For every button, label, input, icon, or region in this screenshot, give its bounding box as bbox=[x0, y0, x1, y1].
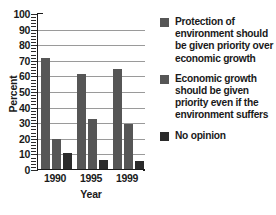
y-axis-minor-tick bbox=[31, 117, 36, 118]
y-axis-minor-tick bbox=[31, 114, 36, 115]
y-axis-minor-tick bbox=[31, 136, 36, 137]
y-axis-tick-labels: 0102030405060708090100 bbox=[4, 14, 30, 170]
bar bbox=[99, 160, 108, 169]
bar-group bbox=[113, 14, 144, 169]
y-axis-minor-tick bbox=[31, 158, 36, 159]
y-axis-tick-label: 30 bbox=[19, 118, 30, 129]
y-axis-tick-label: 20 bbox=[19, 134, 30, 145]
y-axis-minor-tick bbox=[31, 161, 36, 162]
y-axis-minor-tick bbox=[31, 64, 36, 65]
y-axis-minor-tick bbox=[31, 151, 36, 152]
y-axis-minor-tick bbox=[31, 98, 36, 99]
y-axis-minor-tick bbox=[31, 167, 36, 168]
y-axis-minor-tick bbox=[31, 17, 36, 18]
y-axis-tick-label: 80 bbox=[19, 40, 30, 51]
legend-item-label: Economic growth should be given priority… bbox=[175, 73, 276, 122]
y-axis-tick-label: 50 bbox=[19, 87, 30, 98]
y-axis-minor-tick bbox=[31, 101, 36, 102]
bar bbox=[52, 139, 61, 169]
legend-item-label: Protection of environment should be give… bbox=[175, 16, 276, 65]
y-axis-tick-label: 90 bbox=[19, 24, 30, 35]
y-axis-minor-tick bbox=[31, 86, 36, 87]
x-axis-title: Year bbox=[37, 188, 145, 200]
legend-item[interactable]: Economic growth should be given priority… bbox=[160, 73, 276, 122]
y-axis-minor-tick bbox=[31, 70, 36, 71]
y-axis-minor-tick bbox=[31, 120, 36, 121]
legend-item-label: No opinion bbox=[175, 130, 226, 142]
y-axis-minor-tick bbox=[31, 164, 36, 165]
bar bbox=[63, 153, 72, 169]
y-axis-minor-tick bbox=[31, 129, 36, 130]
y-axis-minor-tick bbox=[31, 133, 36, 134]
y-axis-minor-tick bbox=[31, 51, 36, 52]
legend-swatch-icon bbox=[160, 132, 169, 141]
bar bbox=[88, 119, 97, 169]
y-axis-minor-tick bbox=[31, 73, 36, 74]
y-axis-minor-tick bbox=[31, 58, 36, 59]
bar-group bbox=[41, 14, 72, 169]
y-axis-minor-tick bbox=[31, 111, 36, 112]
x-axis-tick-label: 1995 bbox=[80, 172, 102, 184]
y-axis-minor-tick bbox=[31, 104, 36, 105]
y-axis-minor-tick bbox=[31, 26, 36, 27]
y-axis-minor-tick bbox=[31, 95, 36, 96]
y-axis-minor-tick bbox=[31, 170, 38, 171]
bar-chart-figure: Percent 0102030405060708090100 199019951… bbox=[0, 0, 276, 215]
y-axis-tick-label: 40 bbox=[19, 102, 30, 113]
bar bbox=[124, 124, 133, 169]
x-axis-tick-labels: 199019951999 bbox=[37, 172, 145, 186]
y-axis-tick-label: 100 bbox=[13, 9, 30, 20]
y-axis-minor-tick bbox=[31, 148, 36, 149]
y-axis-minor-tick bbox=[31, 80, 36, 81]
plot-area: Percent 0102030405060708090100 199019951… bbox=[0, 0, 152, 215]
x-axis-tick-label: 1990 bbox=[44, 172, 66, 184]
y-axis-minor-tick bbox=[31, 67, 36, 68]
y-axis-minor-tick bbox=[31, 42, 36, 43]
y-axis-minor-tick bbox=[31, 83, 36, 84]
y-axis-minor-tick bbox=[31, 142, 36, 143]
bar bbox=[77, 74, 86, 169]
y-axis-minor-tick bbox=[31, 145, 36, 146]
y-axis-tick-label: 10 bbox=[19, 149, 30, 160]
legend-swatch-icon bbox=[160, 18, 169, 27]
y-axis-minor-tick bbox=[31, 55, 36, 56]
bar bbox=[135, 161, 144, 169]
axis-frame bbox=[37, 14, 145, 170]
bars-layer bbox=[38, 14, 145, 169]
legend-item[interactable]: No opinion bbox=[160, 130, 276, 142]
bar-group bbox=[77, 14, 108, 169]
y-axis-tick-label: 0 bbox=[24, 165, 30, 176]
chart-legend: Protection of environment should be give… bbox=[160, 16, 276, 150]
y-axis-tick-label: 70 bbox=[19, 56, 30, 67]
y-axis-tick-label: 60 bbox=[19, 71, 30, 82]
y-axis-minor-tick bbox=[31, 20, 36, 21]
y-axis-minor-tick bbox=[31, 126, 36, 127]
y-axis-minor-tick bbox=[31, 39, 36, 40]
y-axis-minor-tick bbox=[31, 33, 36, 34]
legend-item[interactable]: Protection of environment should be give… bbox=[160, 16, 276, 65]
x-axis-tick-label: 1999 bbox=[116, 172, 138, 184]
bar bbox=[113, 69, 122, 169]
y-axis-minor-tick bbox=[31, 48, 36, 49]
y-axis-minor-tick bbox=[31, 89, 36, 90]
legend-swatch-icon bbox=[160, 75, 169, 84]
bar bbox=[41, 58, 50, 169]
y-axis-minor-tick bbox=[31, 36, 36, 37]
y-axis-minor-tick bbox=[31, 23, 36, 24]
